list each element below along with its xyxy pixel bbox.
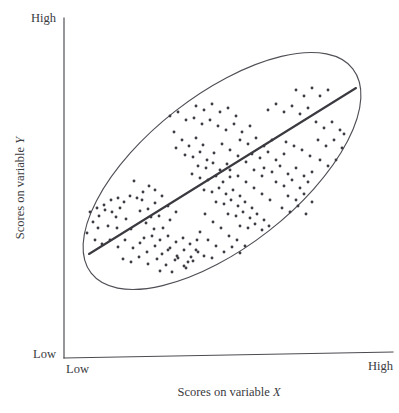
scatter-point (249, 217, 252, 220)
scatter-point (192, 156, 195, 159)
scatter-point (251, 207, 254, 210)
scatter-point (235, 215, 238, 218)
scatter-point (226, 163, 229, 166)
scatter-point (185, 119, 188, 122)
scatter-point (202, 144, 205, 147)
scatter-point (275, 181, 278, 184)
scatter-point (283, 111, 286, 114)
scatter-point (233, 123, 236, 126)
scatter-point (247, 143, 250, 146)
scatter-point (154, 202, 157, 205)
scatter-point (158, 215, 161, 218)
axes-group (64, 18, 393, 358)
regression-line (89, 88, 356, 254)
scatter-point (219, 111, 222, 114)
scatter-point (333, 139, 336, 142)
scatter-point (167, 235, 170, 238)
scatter-point (244, 245, 247, 248)
scatter-point (227, 213, 230, 216)
scatter-point (124, 239, 127, 242)
scatter-point (151, 235, 154, 238)
y-axis-low-label: Low (33, 347, 56, 361)
scatter-point (138, 256, 141, 259)
scatter-point (111, 211, 114, 214)
scatter-point (295, 199, 298, 202)
scatter-point (293, 145, 296, 148)
scatter-point (297, 205, 300, 208)
scatter-point (161, 253, 164, 256)
scatter-point (275, 159, 278, 162)
scatter-point (299, 187, 302, 190)
scatter-point (162, 227, 165, 230)
scatter-point (268, 225, 271, 228)
scatter-point (311, 171, 314, 174)
scatter-point (291, 179, 294, 182)
scatter-point (327, 165, 330, 168)
scatter-point (239, 195, 242, 198)
scatter-point (195, 137, 198, 140)
scatter-point (261, 193, 264, 196)
scatter-point (271, 171, 274, 174)
scatter-point (323, 127, 326, 130)
scatter-point (191, 173, 194, 176)
scatter-point (215, 245, 218, 248)
scatter-point (239, 225, 242, 228)
scatter-point (223, 203, 226, 206)
x-axis-low-label: Low (66, 362, 89, 376)
scatter-point (242, 211, 245, 214)
scatter-point (291, 105, 294, 108)
scatter-point (299, 113, 302, 116)
scatter-point (171, 271, 174, 274)
scatter-point (247, 227, 250, 230)
scatter-point (231, 246, 234, 249)
scatter-point (211, 191, 214, 194)
scatter-point (96, 207, 99, 210)
scatter-point (142, 191, 145, 194)
scatter-point (169, 219, 172, 222)
scatter-point (167, 249, 170, 252)
scatter-point (305, 213, 308, 216)
scatter-point (311, 201, 314, 204)
scatter-point (325, 145, 328, 148)
scatter-point (190, 256, 193, 259)
scatter-point (232, 189, 235, 192)
scatter-point (267, 109, 270, 112)
scatter-point (279, 165, 282, 168)
scatter-point (209, 119, 212, 122)
scatter-point (146, 251, 149, 254)
scatter-point (212, 221, 215, 224)
scatter-point (283, 153, 286, 156)
scatter-point (315, 121, 318, 124)
scatter-point (175, 241, 178, 244)
scatter-point (147, 263, 150, 266)
scatter-point (301, 149, 304, 152)
scatter-point (119, 207, 122, 210)
scatter-point (319, 159, 322, 162)
scatter-point (123, 201, 126, 204)
scatter-point (132, 247, 135, 250)
scatter-point (161, 195, 164, 198)
scatter-point (154, 245, 157, 248)
scatter-point (343, 133, 346, 136)
scatter-point (303, 95, 306, 98)
scatter-point (236, 239, 239, 242)
scatter-point (289, 211, 292, 214)
scatter-point (239, 139, 242, 142)
scatter-point (335, 159, 338, 162)
scatter-point (187, 261, 190, 264)
scatter-point (275, 103, 278, 106)
scatter-point (303, 193, 306, 196)
scatter-plot-figure: High Low Low High Scores on variable X S… (0, 0, 399, 413)
scatter-point (153, 228, 156, 231)
x-axis-high-label: High (368, 359, 394, 373)
scatter-point (311, 87, 314, 90)
scatter-point (263, 219, 266, 222)
scatter-point (218, 187, 221, 190)
x-axis-title-variable: X (272, 385, 282, 399)
scatter-point (199, 231, 202, 234)
scatter-point (239, 252, 242, 255)
scatter-point (177, 257, 180, 260)
scatter-point (117, 246, 120, 249)
scatter-point (89, 211, 92, 214)
scatter-point (261, 229, 264, 232)
